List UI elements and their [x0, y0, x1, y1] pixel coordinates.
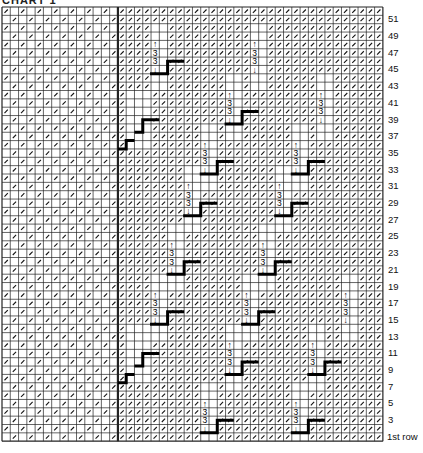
knit-slash-icon: [303, 318, 306, 321]
knit-slash-icon: [228, 193, 231, 196]
knit-slash-icon: [21, 193, 24, 196]
knit-slash-icon: [253, 235, 256, 238]
knit-slash-icon: [129, 35, 132, 38]
knit-slash-icon: [13, 285, 16, 288]
knit-slash-icon: [352, 151, 355, 154]
knit-slash-icon: [195, 243, 198, 246]
knit-slash-icon: [195, 302, 198, 305]
knit-slash-icon: [220, 68, 223, 71]
knit-slash-icon: [211, 268, 214, 271]
knit-slash-icon: [294, 243, 297, 246]
knit-slash-icon: [278, 110, 281, 113]
knit-slash-icon: [253, 210, 256, 213]
knit-slash-icon: [286, 277, 289, 280]
knit-slash-icon: [361, 177, 364, 180]
knit-slash-icon: [162, 168, 165, 171]
knit-slash-icon: [129, 260, 132, 263]
knit-slash-icon: [29, 168, 32, 171]
knit-slash-icon: [228, 151, 231, 154]
knit-slash-icon: [162, 235, 165, 238]
knit-slash-icon: [104, 177, 107, 180]
knit-slash-icon: [220, 135, 223, 138]
knit-slash-icon: [245, 177, 248, 180]
knit-slash-icon: [54, 26, 57, 29]
knit-slash-icon: [203, 243, 206, 246]
knit-slash-icon: [336, 427, 339, 430]
knit-slash-icon: [319, 218, 322, 221]
knit-slash-icon: [278, 60, 281, 63]
knit-slash-icon: [311, 235, 314, 238]
knit-slash-icon: [352, 268, 355, 271]
knit-slash-icon: [46, 185, 49, 188]
knit-slash-icon: [220, 35, 223, 38]
row-label: 31: [388, 180, 399, 191]
knit-slash-icon: [178, 51, 181, 54]
knit-slash-icon: [319, 193, 322, 196]
knit-slash-icon: [162, 394, 165, 397]
knit-slash-icon: [129, 243, 132, 246]
knit-slash-icon: [269, 10, 272, 13]
knit-slash-icon: [112, 285, 115, 288]
knit-slash-icon: [336, 60, 339, 63]
row-label: 43: [388, 80, 399, 91]
knit-slash-icon: [286, 385, 289, 388]
knit-slash-icon: [361, 93, 364, 96]
knit-slash-icon: [369, 419, 372, 422]
knit-slash-icon: [87, 126, 90, 129]
knit-slash-icon: [377, 318, 380, 321]
knit-slash-icon: [145, 43, 148, 46]
knit-slash-icon: [104, 243, 107, 246]
knit-slash-icon: [104, 260, 107, 263]
knit-slash-icon: [162, 352, 165, 355]
knit-slash-icon: [352, 193, 355, 196]
knit-slash-icon: [187, 427, 190, 430]
knit-slash-icon: [236, 410, 239, 413]
row-label: 21: [388, 264, 399, 275]
knit-slash-icon: [336, 110, 339, 113]
knit-slash-icon: [269, 60, 272, 63]
knit-slash-icon: [253, 419, 256, 422]
knit-slash-icon: [286, 419, 289, 422]
knit-slash-icon: [336, 18, 339, 21]
knit-slash-icon: [369, 76, 372, 79]
knit-slash-icon: [245, 85, 248, 88]
knit-slash-icon: [120, 235, 123, 238]
knit-slash-icon: [336, 126, 339, 129]
knit-slash-icon: [112, 185, 115, 188]
knit-slash-icon: [79, 151, 82, 154]
knit-slash-icon: [344, 101, 347, 104]
knit-slash-icon: [344, 93, 347, 96]
knit-slash-icon: [253, 126, 256, 129]
knit-slash-icon: [170, 185, 173, 188]
knit-slash-icon: [369, 260, 372, 263]
knit-slash-icon: [228, 268, 231, 271]
knit-slash-icon: [286, 68, 289, 71]
knit-slash-icon: [269, 402, 272, 405]
knit-slash-icon: [120, 335, 123, 338]
knit-slash-icon: [145, 318, 148, 321]
knit-slash-icon: [170, 135, 173, 138]
knit-slash-icon: [336, 185, 339, 188]
knit-slash-icon: [87, 177, 90, 180]
knit-slash-icon: [112, 402, 115, 405]
knit-slash-icon: [269, 202, 272, 205]
knit-slash-icon: [170, 177, 173, 180]
knit-slash-icon: [294, 43, 297, 46]
knit-slash-icon: [361, 110, 364, 113]
knit-slash-icon: [4, 410, 7, 413]
knit-slash-icon: [87, 394, 90, 397]
knit-slash-icon: [303, 335, 306, 338]
knit-slash-icon: [220, 293, 223, 296]
knit-slash-icon: [120, 369, 123, 372]
knit-slash-icon: [236, 26, 239, 29]
knit-slash-icon: [286, 268, 289, 271]
knit-slash-icon: [13, 369, 16, 372]
knit-slash-icon: [178, 318, 181, 321]
knit-slash-icon: [187, 318, 190, 321]
knit-slash-icon: [211, 327, 214, 330]
knit-slash-icon: [54, 360, 57, 363]
knit-slash-icon: [327, 419, 330, 422]
knit-slash-icon: [203, 302, 206, 305]
knit-slash-icon: [228, 293, 231, 296]
knit-slash-icon: [104, 227, 107, 230]
